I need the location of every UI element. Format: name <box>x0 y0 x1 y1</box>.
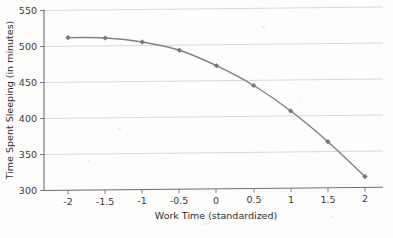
data-point <box>66 35 71 40</box>
y-axis-title: Time Spent Sleeping (in minutes) <box>4 21 15 181</box>
y-tick-label: 500 <box>19 41 37 52</box>
scan-noise <box>88 26 333 225</box>
y-tick-label: 300 <box>19 185 37 196</box>
data-point <box>140 40 145 45</box>
x-tick-label: 2 <box>362 193 368 204</box>
x-tick-label: 0 <box>213 195 219 206</box>
data-point <box>214 63 219 68</box>
y-axis <box>40 10 44 191</box>
x-tick-label: -0.5 <box>170 195 189 206</box>
y-tick-label: 550 <box>19 5 37 16</box>
y-tick-labels: 550 500 450 400 350 300 <box>19 5 37 196</box>
y-tick-label: 350 <box>19 149 37 160</box>
series-markers <box>66 35 368 179</box>
x-tick-label: -1 <box>137 195 146 206</box>
x-tick-label: 1.5 <box>320 194 335 205</box>
data-point <box>103 36 108 41</box>
data-series-time-spent-sleeping <box>66 35 368 179</box>
x-tick-label: -2 <box>63 196 72 207</box>
y-tick-label: 450 <box>19 77 37 88</box>
x-tick-label: 1 <box>288 194 294 205</box>
gridlines <box>44 7 383 155</box>
x-axis-title: Work Time (standardized) <box>155 210 277 221</box>
line-chart-svg: 550 500 450 400 350 300 Time Spent Sleep… <box>0 0 393 238</box>
series-line <box>68 38 365 177</box>
x-tick-label: -1.5 <box>96 196 115 207</box>
x-tick-labels: -2 -1.5 -1 -0.5 0 0.5 1 1.5 2 <box>63 193 368 207</box>
chart-figure: 550 500 450 400 350 300 Time Spent Sleep… <box>0 0 393 238</box>
data-point <box>177 48 182 53</box>
y-tick-label: 400 <box>19 113 37 124</box>
x-tick-label: 0.5 <box>246 194 261 205</box>
